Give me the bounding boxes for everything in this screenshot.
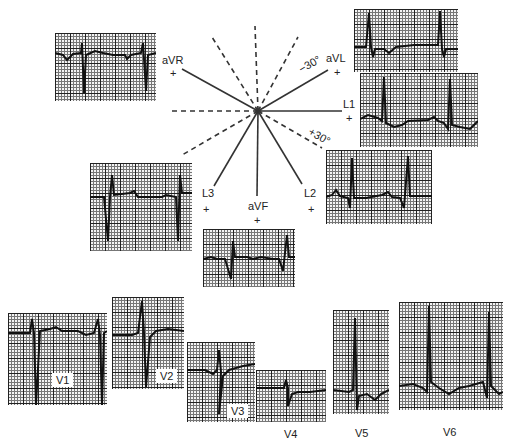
label-l2: L2	[304, 187, 316, 199]
ecg-strip-avr	[55, 33, 156, 101]
ecg-strip-v2: V2	[112, 297, 184, 389]
plus-avl: +	[334, 66, 340, 78]
label-l3: L3	[202, 187, 214, 199]
lead-axis-l3	[214, 111, 258, 186]
negative-axis-l2	[212, 37, 258, 111]
ecg-strip-v4	[256, 370, 326, 422]
label-v2: V2	[156, 369, 177, 383]
ecg-strip-v5	[333, 310, 389, 414]
label-avr: aVR	[162, 54, 183, 66]
ecg-strip-avf	[203, 229, 295, 287]
label-v6: V6	[443, 426, 456, 438]
label-avf: aVF	[248, 200, 268, 212]
ecg-strip-l3	[90, 163, 192, 251]
ecg-strip-l2	[326, 150, 432, 224]
label-v5: V5	[355, 427, 368, 439]
label-v1: V1	[52, 373, 73, 387]
label-l1: L1	[343, 98, 355, 110]
plus-l1: +	[346, 112, 352, 124]
lead-axis-avf	[257, 111, 258, 196]
ecg-figure: aVR + aVL + −30° L1 + +30° L3 + aVF + L2…	[0, 0, 508, 447]
ecg-strip-v3: V3	[187, 342, 255, 422]
plus-l3: +	[203, 203, 209, 215]
ecg-strip-l1	[360, 73, 478, 147]
ecg-strip-v6	[399, 302, 503, 410]
label-v4: V4	[284, 428, 297, 440]
plus-l2: +	[308, 203, 314, 215]
ecg-strip-avl	[354, 9, 458, 72]
label-avl: aVL	[326, 52, 346, 64]
lead-axis-l2	[258, 111, 302, 184]
label-v3: V3	[227, 404, 248, 418]
negative-axis-avf	[255, 26, 258, 111]
lead-axis-avl	[258, 70, 328, 111]
lead-axis-avr	[182, 69, 258, 111]
negative-axis-avl	[182, 111, 258, 155]
ecg-strip-v1: V1	[8, 313, 107, 405]
plus-avr: +	[170, 67, 176, 79]
plus-avf: +	[254, 214, 260, 226]
